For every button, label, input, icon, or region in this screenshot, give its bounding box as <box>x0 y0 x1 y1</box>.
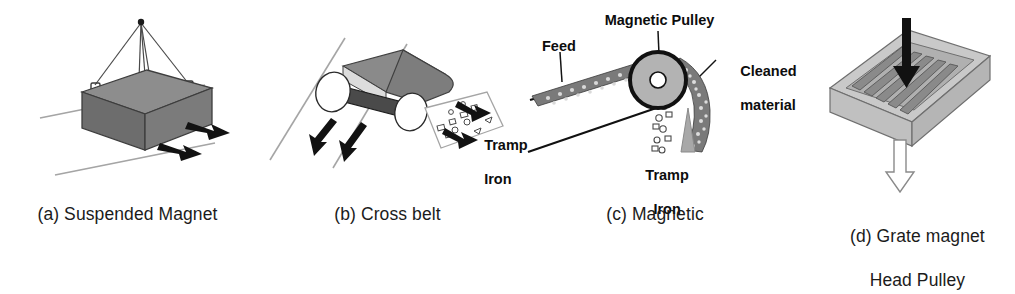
leader-feed <box>560 52 562 82</box>
panel-a-caption: (a) Suspended Magnet <box>0 203 255 225</box>
tramp-iron-label-b-line2: Iron <box>484 171 511 187</box>
belt-lower-line <box>528 104 668 152</box>
panel-grate-magnet: (d) Grate magnet Head Pulley <box>790 0 1015 273</box>
panel-d-caption-line1: (d) Grate magnet <box>850 226 985 246</box>
panel-c-caption: (c) Magnetic <box>520 203 790 225</box>
magnetic-pulley-label: Magnetic Pulley <box>592 12 727 29</box>
panel-b-caption: (b) Cross belt <box>255 203 520 225</box>
cleaned-material-line1: Cleaned <box>740 63 796 79</box>
panel-d-caption-line2: Head Pulley <box>870 270 965 290</box>
panel-cross-belt: Tramp Iron (b) Cross belt <box>255 0 520 273</box>
outflow-arrow <box>886 140 914 192</box>
conveyor-line-near <box>55 143 215 175</box>
pulley-hub <box>650 72 666 88</box>
tramp-iron-label-c-line1: Tramp <box>645 167 689 183</box>
panel-magnetic-pulley: Magnetic Pulley Feed Cleaned material Tr… <box>520 0 790 273</box>
tramp-iron-stream <box>652 103 672 153</box>
suspension-point <box>138 19 144 25</box>
tramp-iron-label-b: Tramp Iron <box>460 120 528 205</box>
panel-suspended-magnet: (a) Suspended Magnet <box>0 0 255 273</box>
cleaned-material-label: Cleaned material <box>716 46 797 131</box>
feed-label: Feed <box>542 38 576 55</box>
cleaned-material-line2: material <box>740 97 796 113</box>
grate-magnet-illustration <box>790 0 1015 200</box>
panel-d-caption: (d) Grate magnet Head Pulley <box>790 203 1015 294</box>
suspended-magnet-illustration <box>0 0 255 200</box>
